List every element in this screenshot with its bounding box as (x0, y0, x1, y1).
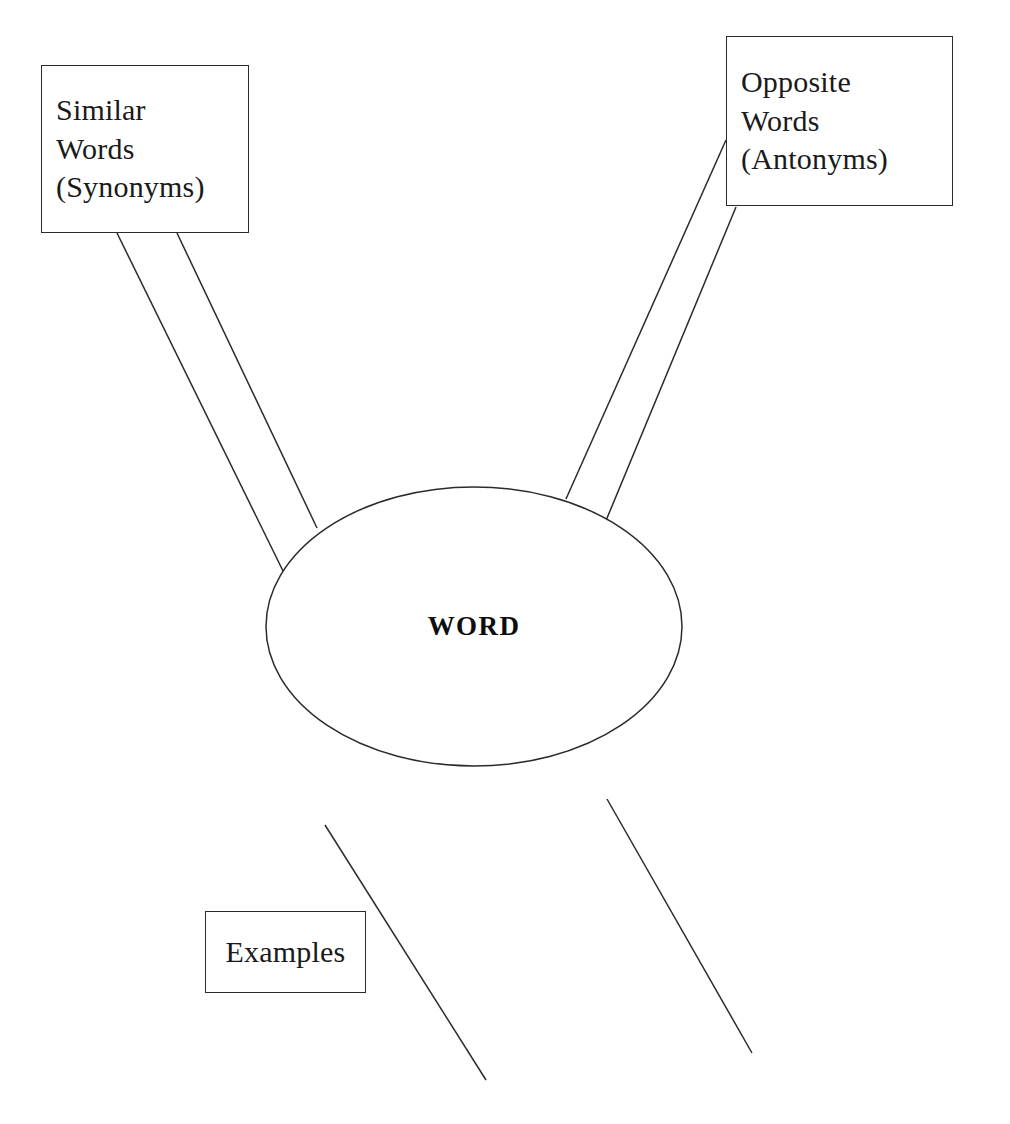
node-opposite-words-label: Opposite Words (Antonyms) (741, 63, 888, 178)
connector-bottom-right (607, 799, 752, 1053)
word-map-diagram: WORD Similar Words (Synonyms) Opposite W… (0, 0, 1010, 1124)
node-examples: Examples (205, 911, 366, 993)
connector-opposite-left (566, 140, 726, 499)
node-similar-words-label: Similar Words (Synonyms) (56, 91, 205, 206)
node-opposite-words: Opposite Words (Antonyms) (726, 36, 953, 206)
connector-opposite-right (605, 207, 736, 523)
node-examples-label: Examples (226, 933, 346, 971)
center-word-ellipse (266, 487, 682, 766)
node-similar-words: Similar Words (Synonyms) (41, 65, 249, 233)
connector-similar-right (177, 233, 317, 528)
